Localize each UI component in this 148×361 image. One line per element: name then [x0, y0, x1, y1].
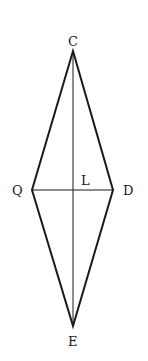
label-l: L [81, 173, 90, 188]
label-c: C [68, 34, 78, 49]
label-q: Q [12, 183, 23, 198]
label-d: D [123, 183, 133, 198]
label-e: E [68, 334, 78, 349]
rhombus-diagram: C Q D E L [0, 0, 148, 361]
